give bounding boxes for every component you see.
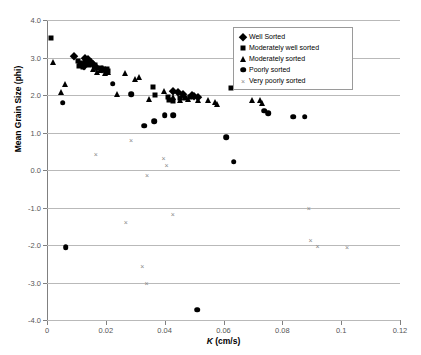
gridline [47,133,400,134]
x-axis-tick [47,321,48,325]
data-point [214,101,220,107]
x-axis-tick [165,321,166,325]
gridline [47,20,400,21]
data-point [231,159,237,165]
legend-marker-square-icon [237,42,249,53]
y-axis-tick-label: -2.0 [28,241,41,250]
y-axis-tick-label: 0.0 [31,166,41,175]
data-point [100,65,106,71]
data-point [77,60,82,65]
data-point [265,110,271,116]
data-point [96,65,101,70]
data-point [80,62,88,70]
data-point [70,52,78,60]
legend-marker-triangle-icon [237,53,249,64]
data-point: × [140,263,144,270]
data-point [93,63,101,71]
y-axis-tick-label: 2.0 [31,91,41,100]
data-point [50,59,56,65]
data-point [185,96,191,102]
x-axis-tick [282,321,283,325]
data-point [97,67,103,73]
y-axis-tick [43,245,47,246]
x-axis-tick [106,321,107,325]
data-point: × [161,155,165,162]
y-axis-tick [43,58,47,59]
x-axis-tick-label: 0.06 [216,326,231,335]
y-axis-tick [43,283,47,284]
data-point [92,63,97,68]
data-point [146,96,152,102]
data-point: × [309,236,313,243]
data-point [171,112,177,118]
data-point [94,69,100,75]
x-axis-tick [400,321,401,325]
data-point [84,60,90,66]
data-point [257,97,263,103]
data-point [290,114,296,120]
data-point [224,134,230,140]
chart-legend: Well SortedModerately well sortedModerat… [233,27,353,90]
legend-marker-circle-icon [237,64,249,75]
data-point: × [171,211,175,218]
data-point [60,100,66,106]
data-point [90,66,96,72]
data-point [151,118,157,124]
data-point [249,97,255,103]
y-axis-tick [43,170,47,171]
legend-marker-diamond-icon [237,31,249,42]
data-point: × [164,161,168,168]
data-point [150,84,155,89]
data-point [212,99,218,105]
data-point [90,60,98,68]
data-point [177,97,183,103]
legend-label: Moderately well sorted [249,44,319,51]
data-point [183,96,188,101]
y-axis-tick [43,95,47,96]
y-axis-tick [43,133,47,134]
y-axis-tick [43,208,47,209]
data-point [302,114,308,120]
y-axis-tick-label: -4.0 [28,316,41,325]
y-axis-tick-label: 3.0 [31,53,41,62]
data-point [81,65,86,70]
data-point [195,97,201,103]
legend-item: Moderately sorted [237,53,348,64]
y-axis-tick-label: -1.0 [28,203,41,212]
data-point [194,93,202,101]
gridline [47,245,400,246]
legend-item: Well Sorted [237,31,348,42]
y-axis-tick-label: -3.0 [28,278,41,287]
legend-label: Very poorly sorted [249,77,305,84]
scatter-chart: ××××××××××××× Mean Grain Size (phi) K (c… [0,0,421,355]
data-point [179,90,187,98]
y-axis-tick-label: 1.0 [31,128,41,137]
gridline [47,208,400,209]
data-point [141,123,147,129]
data-point [122,70,128,76]
x-axis-tick-label: 0.04 [157,326,172,335]
data-point [98,65,106,73]
data-point [79,62,84,67]
x-axis-tick-label: 0 [45,326,49,335]
data-point [76,63,81,68]
data-point [167,97,172,102]
data-point [261,108,267,114]
data-point [110,81,116,87]
data-point [259,100,265,106]
legend-item: ×Very poorly sorted [237,75,348,86]
x-axis-tick-label: 0.08 [275,326,290,335]
x-axis-title-symbol: K [207,336,213,346]
data-point [87,58,95,66]
data-point [102,70,108,76]
x-axis-tick-label: 0.1 [336,326,346,335]
data-point [132,76,138,82]
data-point [76,58,81,63]
data-point [105,69,111,75]
x-axis-title: K (cm/s) [47,336,400,346]
data-point [170,87,178,95]
data-point [162,112,168,118]
x-axis-tick [224,321,225,325]
data-point [106,69,111,74]
data-point [194,307,200,313]
